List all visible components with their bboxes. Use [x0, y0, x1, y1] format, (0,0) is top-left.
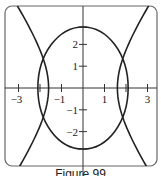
y-tick-label: −2 — [66, 126, 78, 138]
plot-area: −3−11321−1−2 — [0, 0, 161, 176]
x-tick-label: −3 — [11, 93, 23, 105]
figure-caption: Figure 99 — [0, 167, 161, 176]
y-tick-label: 2 — [73, 38, 79, 50]
x-tick-label: −1 — [54, 93, 66, 105]
x-tick-label: 3 — [145, 93, 151, 105]
y-tick-label: −1 — [66, 104, 78, 116]
x-tick-label: 1 — [102, 93, 108, 105]
y-tick-label: 1 — [73, 60, 79, 72]
figure: −3−11321−1−2 Figure 99 — [0, 0, 161, 176]
